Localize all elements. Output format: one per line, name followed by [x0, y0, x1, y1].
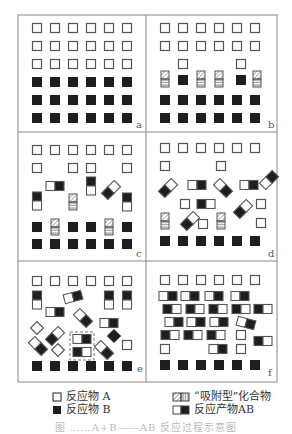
- reactant-a: [87, 24, 96, 33]
- reactant-b: [69, 114, 78, 123]
- reactant-b: [123, 78, 132, 87]
- reactant-a: [215, 42, 224, 51]
- reactant-a: [105, 146, 114, 155]
- reactant-b: [251, 237, 260, 246]
- legend-label: 反应物 A: [66, 390, 110, 403]
- reactant-a: [251, 42, 260, 51]
- panel-label: a: [136, 119, 142, 130]
- product-ab: [209, 305, 227, 314]
- reactant-b: [179, 114, 188, 123]
- legend-item-reactant-b: 反应物 B: [52, 403, 111, 416]
- reactant-a: [179, 60, 188, 69]
- product-ab: [45, 326, 64, 345]
- adsorbed-compound: [197, 71, 205, 87]
- reactant-a: [51, 146, 60, 155]
- legend-item-reactant-a: 反应物 A: [52, 390, 110, 403]
- legend-label: 反应产物AB: [194, 403, 254, 416]
- reactant-b: [215, 361, 224, 370]
- product-ab: [254, 337, 272, 346]
- reactant-a: [33, 164, 42, 173]
- reactant-a: [217, 162, 226, 171]
- legend-label: 反应物 B: [66, 403, 111, 416]
- product-ab: [210, 318, 228, 327]
- reactant-b: [197, 361, 206, 370]
- product-ab: [28, 336, 47, 355]
- reactant-a: [237, 345, 246, 354]
- panel-label: d: [268, 248, 275, 259]
- panel-label: c: [136, 248, 142, 259]
- filled-square-icon: [52, 405, 62, 415]
- legend-item-adsorbed: “吸附型”化合物: [172, 390, 271, 403]
- reactant-a: [123, 277, 132, 286]
- reactant-a: [161, 42, 170, 51]
- reactant-a: [33, 60, 42, 69]
- reactant-a: [197, 144, 206, 153]
- product-ab: [207, 331, 225, 340]
- product-ab: [205, 292, 223, 301]
- reactant-b: [69, 362, 78, 371]
- reactant-a: [31, 322, 44, 335]
- reactant-a: [237, 331, 246, 340]
- reactant-a: [233, 24, 242, 33]
- reactant-a: [69, 24, 78, 33]
- reactant-b: [108, 330, 121, 343]
- product-ab: [73, 348, 91, 357]
- reactant-b: [123, 223, 132, 232]
- open-square-icon: [52, 392, 62, 402]
- product-ab: [232, 305, 250, 314]
- reactant-a: [233, 276, 242, 285]
- reactant-a: [197, 24, 206, 33]
- reactant-a: [87, 164, 96, 173]
- reactant-a: [161, 24, 170, 33]
- reactant-a: [179, 276, 188, 285]
- reactant-a: [251, 24, 260, 33]
- reactant-a: [105, 42, 114, 51]
- product-ab: [159, 292, 177, 301]
- product-ab: [213, 178, 232, 197]
- reactant-a: [87, 146, 96, 155]
- panel-label: e: [137, 363, 143, 374]
- reactant-b: [51, 240, 60, 249]
- product-ab-icon: [172, 405, 190, 415]
- reactant-a: [123, 60, 132, 69]
- product-ab: [163, 305, 181, 314]
- reactant-a: [33, 277, 42, 286]
- reactant-b: [215, 114, 224, 123]
- reactant-a: [69, 277, 78, 286]
- reactant-a: [123, 341, 132, 350]
- reactant-a: [105, 277, 114, 286]
- reactant-b: [179, 237, 188, 246]
- reactant-b: [87, 223, 96, 232]
- reactant-b: [161, 237, 170, 246]
- product-ab: [240, 181, 258, 190]
- reactant-a: [197, 276, 206, 285]
- product-ab: [63, 290, 83, 303]
- reactant-a: [215, 24, 224, 33]
- reactant-b: [197, 237, 206, 246]
- reactant-b: [233, 361, 242, 370]
- reactant-b: [251, 114, 260, 123]
- panel-frame: [18, 15, 277, 382]
- reactant-a: [123, 24, 132, 33]
- reactant-a: [52, 344, 65, 357]
- product-ab: [236, 316, 256, 329]
- product-ab: [231, 292, 249, 301]
- reactant-a: [69, 60, 78, 69]
- product-ab: [254, 305, 272, 314]
- reactant-b: [105, 96, 114, 105]
- reactant-b: [215, 96, 224, 105]
- product-ab: [73, 335, 91, 344]
- figure-caption: 图 ……A+B——AB 反应过程示意图: [0, 419, 292, 434]
- outer-frame: [18, 15, 277, 382]
- reactant-b: [251, 96, 260, 105]
- reactant-b: [33, 223, 42, 232]
- product-ab: [100, 319, 118, 328]
- product-ab: [197, 200, 215, 209]
- reactant-b: [87, 78, 96, 87]
- reactant-a: [105, 60, 114, 69]
- reactant-a: [161, 144, 170, 153]
- adsorbed-compound: [69, 194, 77, 210]
- reactant-b: [123, 240, 132, 249]
- reactant-b: [51, 78, 60, 87]
- reactant-b: [105, 78, 114, 87]
